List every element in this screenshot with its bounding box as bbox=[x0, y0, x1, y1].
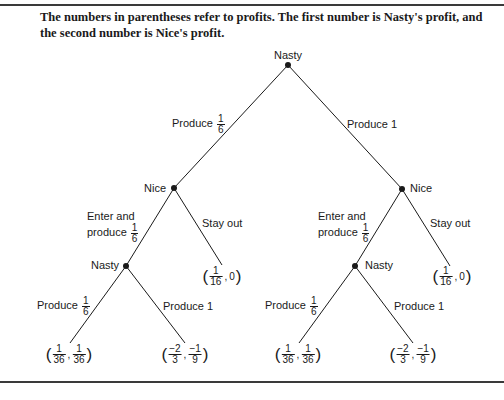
fraction: 136 bbox=[301, 344, 314, 365]
fraction-denominator: 36 bbox=[281, 355, 294, 365]
fraction: −19 bbox=[416, 344, 429, 365]
node-nice-left bbox=[171, 185, 177, 191]
fraction: 136 bbox=[72, 344, 85, 365]
branch-label-nice-left-enter: Enter and produce 16 bbox=[87, 210, 139, 244]
branch-text-line2: produce bbox=[87, 226, 127, 238]
fraction-denominator: 16 bbox=[439, 277, 452, 287]
fraction: 16 bbox=[131, 223, 139, 244]
payoff-rr: (−23,−19) bbox=[390, 344, 437, 365]
fraction: 116 bbox=[439, 266, 452, 287]
bottom-rule bbox=[0, 381, 504, 383]
payoff-left-stay: (116,0) bbox=[203, 266, 242, 287]
branch-text: Produce bbox=[172, 117, 213, 129]
fraction-denominator: 6 bbox=[362, 234, 370, 244]
fraction-denominator: 3 bbox=[168, 355, 181, 365]
branch-label-nice-right-enter: Enter and produce 16 bbox=[318, 210, 370, 244]
branch-label-nasty-right-big: Produce 1 bbox=[394, 300, 444, 313]
branch-text: Produce bbox=[265, 299, 306, 311]
fraction: 136 bbox=[281, 344, 294, 365]
branch-label-root-left: Produce 16 bbox=[172, 114, 226, 135]
fraction-denominator: 9 bbox=[188, 355, 201, 365]
branch-label-nice-right-stay: Stay out bbox=[430, 217, 470, 230]
fraction: −19 bbox=[188, 344, 201, 365]
fraction: 16 bbox=[310, 296, 318, 317]
fraction-denominator: 6 bbox=[131, 234, 139, 244]
fraction-denominator: 3 bbox=[396, 355, 409, 365]
branch-label-nasty-left-small: Produce 16 bbox=[37, 296, 91, 317]
payoff-lr: (−23,−19) bbox=[162, 344, 209, 365]
fraction: 16 bbox=[362, 223, 370, 244]
fraction-denominator: 16 bbox=[209, 277, 222, 287]
payoff-rl: (136,136) bbox=[275, 344, 321, 365]
branch-label-nasty-right-small: Produce 16 bbox=[265, 296, 319, 317]
payoff-value: 0 bbox=[459, 271, 465, 282]
node-label-nasty-left: Nasty bbox=[91, 259, 119, 272]
payoff-right-stay: (116,0) bbox=[433, 266, 472, 287]
fraction: 136 bbox=[52, 344, 65, 365]
node-label-root: Nasty bbox=[274, 49, 302, 62]
payoff-value: 0 bbox=[229, 271, 235, 282]
branch-text-line2: produce bbox=[318, 226, 358, 238]
fraction: 16 bbox=[217, 114, 225, 135]
fraction-denominator: 6 bbox=[217, 125, 225, 135]
fraction-denominator: 6 bbox=[310, 307, 318, 317]
fraction: −23 bbox=[168, 344, 181, 365]
fraction-denominator: 36 bbox=[72, 355, 85, 365]
node-nasty-left bbox=[123, 263, 129, 269]
branch-label-nasty-left-big: Produce 1 bbox=[163, 300, 213, 313]
fraction: 16 bbox=[82, 296, 90, 317]
node-label-nasty-right: Nasty bbox=[365, 259, 393, 272]
fraction: −23 bbox=[396, 344, 409, 365]
fraction-denominator: 6 bbox=[82, 307, 90, 317]
node-root bbox=[285, 62, 291, 68]
branch-label-root-right: Produce 1 bbox=[347, 118, 397, 131]
node-nasty-right bbox=[352, 263, 358, 269]
fraction-denominator: 36 bbox=[301, 355, 314, 365]
node-nice-right bbox=[399, 186, 405, 192]
payoff-ll: (136,136) bbox=[46, 344, 92, 365]
fraction: 116 bbox=[209, 266, 222, 287]
branch-text: Produce bbox=[37, 299, 78, 311]
fraction-denominator: 9 bbox=[416, 355, 429, 365]
node-label-nice-left: Nice bbox=[144, 182, 166, 195]
fraction-denominator: 36 bbox=[52, 355, 65, 365]
branch-label-nice-left-stay: Stay out bbox=[202, 217, 242, 230]
node-label-nice-right: Nice bbox=[410, 182, 432, 195]
game-tree bbox=[0, 0, 504, 400]
